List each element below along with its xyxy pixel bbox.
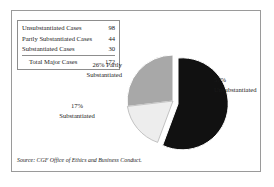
pie-label-substantiated-line2: Substantiated	[40, 111, 114, 121]
figure-frame: Unsubstantiated Cases 98 Partly Substant…	[11, 10, 261, 172]
pie-label-unsubstantiated-line1: 57%	[214, 75, 274, 85]
pie-chart-svg	[122, 49, 228, 155]
pie-label-partly-line1: 26% Partly	[54, 60, 122, 70]
pie-label-substantiated-line1: 17%	[40, 101, 114, 111]
pie-label-partly-substantiated: 26% Partly Substantiated	[54, 60, 122, 80]
pie-label-unsubstantiated-line2: Unsubstantiated	[214, 85, 274, 95]
pie-label-partly-line2: Substantiated	[54, 70, 122, 80]
pie-label-substantiated: 17% Substantiated	[40, 101, 114, 121]
pie-label-unsubstantiated: 57% Unsubstantiated	[214, 75, 274, 95]
source-note: Source: CGF Office of Ethics and Busines…	[17, 157, 142, 163]
pie-chart: 26% Partly Substantiated 17% Substantiat…	[12, 11, 260, 171]
pie-slice-partly-substantiated	[127, 55, 173, 106]
